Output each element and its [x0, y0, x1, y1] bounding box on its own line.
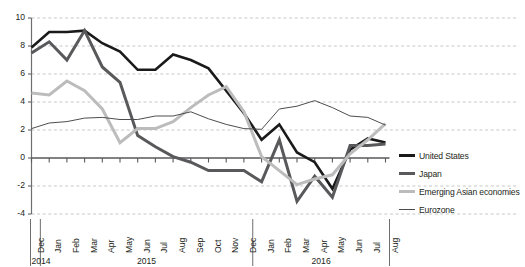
y-axis-tick-label: 10	[7, 12, 25, 22]
legend-item-united-states[interactable]: United States	[399, 147, 525, 164]
x-axis-tick-label: Jul	[372, 242, 382, 253]
x-axis-tick-label: Dec	[36, 238, 46, 253]
x-axis-tick-label: May	[124, 237, 134, 253]
y-axis-tick-label: -2	[7, 180, 25, 190]
y-axis-tick-label: 0	[7, 152, 25, 162]
legend-swatch-icon	[399, 190, 415, 193]
x-axis-tick-label: Oct	[213, 240, 223, 253]
legend-item-label: United States	[419, 151, 469, 161]
legend-item-label: Japan	[419, 169, 442, 179]
x-axis-tick-label: Jan	[53, 239, 63, 253]
chart-legend: United StatesJapanEmerging Asian economi…	[399, 147, 525, 219]
x-axis-year-label: 2016	[253, 256, 390, 266]
legend-swatch-icon	[399, 154, 415, 156]
line-chart-plot	[0, 0, 525, 267]
y-axis-tick-label: 4	[7, 96, 25, 106]
y-axis-tick-label: 6	[7, 68, 25, 78]
legend-item-japan[interactable]: Japan	[399, 165, 525, 182]
y-axis-tick-label: 8	[7, 40, 25, 50]
legend-swatch-icon	[399, 209, 415, 210]
series-line-eurozone	[32, 101, 386, 130]
x-axis-tick-label: Jun	[142, 239, 152, 253]
x-axis-tick-label: Apr	[106, 240, 116, 253]
x-axis-year-label: 2015	[40, 256, 252, 266]
x-axis-tick-label: Jun	[354, 239, 364, 253]
x-axis-tick-label: Feb	[71, 238, 81, 253]
x-axis-tick-label: Feb	[283, 238, 293, 253]
legend-item-emerging-asian-economies[interactable]: Emerging Asian economies	[399, 183, 525, 200]
x-axis-tick-label: Mar	[301, 238, 311, 253]
chart-container: United StatesJapanEmerging Asian economi…	[0, 0, 525, 267]
x-axis-tick-label: Dec	[248, 238, 258, 253]
x-axis-tick-label: Mar	[89, 238, 99, 253]
x-axis-tick-label: Apr	[319, 240, 329, 253]
y-axis-tick-label: 2	[7, 124, 25, 134]
x-axis-tick-label: Jul	[159, 242, 169, 253]
x-axis-tick-label: May	[336, 237, 346, 253]
y-axis-tick-label: -4	[7, 208, 25, 218]
legend-item-label: Emerging Asian economies	[419, 187, 520, 197]
legend-item-eurozone[interactable]: Eurozone	[399, 201, 525, 218]
legend-swatch-icon	[399, 172, 415, 175]
x-axis-tick-label: Nov	[230, 238, 240, 253]
x-axis-tick-label: Aug	[177, 238, 187, 253]
x-axis-tick-label: Aug	[390, 238, 400, 253]
legend-item-label: Eurozone	[419, 205, 455, 215]
x-axis-tick-label: Jan	[266, 239, 276, 253]
series-line-united-states	[32, 31, 386, 189]
x-axis-tick-label: Sep	[195, 238, 205, 253]
